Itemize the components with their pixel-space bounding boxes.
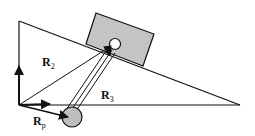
label-r2: R2 [42, 55, 55, 71]
connecting-rod [66, 48, 115, 114]
label-r3: R3 [101, 88, 114, 104]
mechanics-diagram: R2 R3 Rp [0, 0, 255, 136]
block-pivot-hole [110, 39, 121, 50]
vector-r2 [19, 46, 111, 105]
vector-r3 [70, 48, 111, 113]
vector-rp [19, 105, 68, 117]
horizontal-axis-arrow [19, 104, 50, 105]
label-rp: Rp [33, 114, 46, 130]
sliding-block [86, 13, 154, 66]
